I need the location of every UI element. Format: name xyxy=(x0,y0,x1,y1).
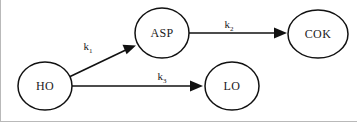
diagram-canvas: k1 k2 k3 HO ASP xyxy=(0,0,357,122)
node-ho: HO xyxy=(18,62,72,110)
rate-label-k3-subscript: 3 xyxy=(163,77,167,85)
rate-label-k3: k3 xyxy=(158,70,168,85)
edge-ho-lo-arrowhead xyxy=(190,81,203,92)
node-cok-label: COK xyxy=(305,27,332,41)
edge-asp-cok: k2 xyxy=(189,18,287,39)
rate-label-k1-subscript: 1 xyxy=(89,47,93,55)
edge-ho-asp-arrowhead xyxy=(123,45,137,54)
node-cok: COK xyxy=(288,10,348,58)
node-asp-label: ASP xyxy=(150,26,173,40)
rate-label-k1: k1 xyxy=(84,40,94,55)
node-asp: ASP xyxy=(135,8,189,58)
edge-ho-asp: k1 xyxy=(67,40,136,78)
edge-asp-cok-arrowhead xyxy=(274,28,287,39)
reaction-scheme-diagram: k1 k2 k3 HO ASP xyxy=(0,0,357,122)
node-lo-label: LO xyxy=(224,79,241,93)
node-lo: LO xyxy=(205,62,259,110)
rate-label-k2: k2 xyxy=(225,18,235,33)
rate-label-k2-subscript: 2 xyxy=(230,25,234,33)
node-ho-label: HO xyxy=(36,79,54,93)
edge-ho-asp-line xyxy=(67,48,131,79)
edge-ho-lo: k3 xyxy=(72,70,203,92)
